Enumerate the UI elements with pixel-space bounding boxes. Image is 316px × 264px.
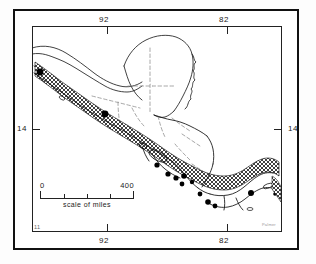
- longitude-label-top-82: 82: [219, 15, 229, 24]
- cartographer-signature: Palmer: [262, 222, 276, 227]
- latitude-label-left-14: 14: [17, 124, 27, 133]
- scale-start-label: 0: [40, 181, 45, 190]
- scale-rule: [40, 191, 134, 199]
- scale-tick-1: [64, 194, 65, 198]
- scale-tick-3: [110, 194, 111, 198]
- tick-bottom-92: [107, 224, 108, 231]
- tick-top-82: [227, 27, 228, 34]
- tick-bottom-82: [227, 224, 228, 231]
- tick-left-14: [33, 129, 40, 130]
- longitude-label-bottom-82: 82: [219, 236, 229, 245]
- scale-bar: 0 400 scale of miles: [40, 181, 134, 208]
- tick-top-92: [107, 27, 108, 34]
- scale-caption: scale of miles: [40, 201, 134, 208]
- tick-right-14: [274, 129, 281, 130]
- longitude-label-top-92: 92: [99, 15, 109, 24]
- map-figure: 92 82 92 82 14 14 11 0 400 scale of mile…: [0, 0, 316, 264]
- scale-end-label: 400: [120, 181, 134, 190]
- scale-tick-2: [87, 194, 88, 198]
- latitude-label-right-14: 14: [288, 124, 298, 133]
- longitude-label-bottom-92: 92: [99, 236, 109, 245]
- corner-coordinate-label: 11: [34, 224, 40, 230]
